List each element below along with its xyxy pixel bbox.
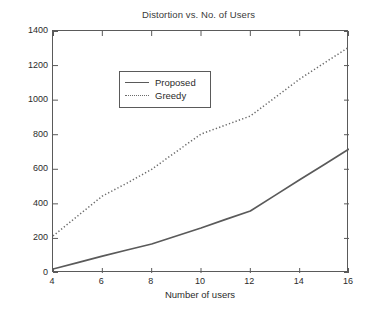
- chart-title: Distortion vs. No. of Users: [0, 9, 367, 20]
- legend-item-proposed: Proposed: [125, 76, 205, 89]
- y-tick-label: 1200: [8, 60, 48, 70]
- x-tick-label: 16: [333, 276, 363, 286]
- legend-label-greedy: Greedy: [155, 90, 186, 101]
- line-sample-solid-icon: [125, 78, 149, 88]
- x-tick-label: 4: [37, 276, 67, 286]
- y-tick-label: 800: [8, 129, 48, 139]
- x-axis-label: Number of users: [52, 289, 348, 300]
- y-tick-label: 600: [8, 163, 48, 173]
- legend-item-greedy: Greedy: [125, 89, 205, 102]
- line-sample-dotted-icon: [125, 91, 149, 101]
- legend-label-proposed: Proposed: [155, 77, 196, 88]
- plot-svg: [53, 31, 349, 273]
- y-tick-label: 400: [8, 198, 48, 208]
- y-tick-label: 1000: [8, 94, 48, 104]
- x-tick-label: 8: [136, 276, 166, 286]
- x-tick-label: 14: [284, 276, 314, 286]
- x-tick-label: 6: [86, 276, 116, 286]
- legend: Proposed Greedy: [119, 71, 211, 108]
- series-line-proposed: [53, 149, 349, 269]
- y-tick-label: 200: [8, 232, 48, 242]
- plot-area: Proposed Greedy: [52, 30, 348, 272]
- y-tick-label: 1400: [8, 25, 48, 35]
- axis-ticks: [53, 31, 349, 273]
- x-tick-label: 12: [234, 276, 264, 286]
- chart-figure: Distortion vs. No. of Users Proposed Gre…: [0, 0, 367, 309]
- x-tick-label: 10: [185, 276, 215, 286]
